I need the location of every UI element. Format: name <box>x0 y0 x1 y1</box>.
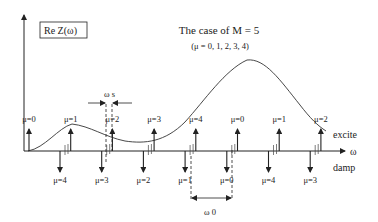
excite-mu-label: μ=4 <box>189 114 203 124</box>
damp-mu-label: μ=2 <box>137 175 151 185</box>
excite-label: excite <box>333 129 357 140</box>
damp-mu-label: μ=3 <box>95 175 109 185</box>
damp-lines: μ=4μ=3μ=2μ=1μ=0μ=4μ=3 <box>53 151 317 185</box>
damp-mu-label: μ=3 <box>303 175 317 185</box>
omega-0-label: ω 0 <box>204 207 216 217</box>
impedance-curve <box>28 60 326 151</box>
diagram-subtitle: (μ = 0, 1, 2, 3, 4) <box>191 41 249 51</box>
y-axis-label: Re Z(ω) <box>44 25 77 37</box>
excite-mu-label: μ=0 <box>22 114 36 124</box>
excite-mu-label: μ=0 <box>231 114 245 124</box>
damp-mu-label: μ=4 <box>53 175 67 185</box>
damp-mu-label: μ=4 <box>262 175 276 185</box>
diagram-title: The case of M = 5 <box>179 24 260 36</box>
x-axis-label: ω <box>350 146 357 157</box>
excite-mu-label: μ=3 <box>147 114 161 124</box>
diagram-canvas: ω Re Z(ω) The case of M = 5 (μ = 0, 1, 2… <box>0 0 378 222</box>
damp-mu-label: μ=0 <box>220 175 234 185</box>
omega-s-label: ω s <box>104 89 115 99</box>
excite-mu-label: μ=2 <box>106 114 120 124</box>
tick-marks <box>65 144 318 155</box>
excite-mu-label: μ=1 <box>64 114 78 124</box>
damp-label: damp <box>333 162 355 173</box>
damp-mu-label: μ=1 <box>178 175 192 185</box>
excite-mu-label: μ=2 <box>314 114 328 124</box>
excite-mu-label: μ=1 <box>272 114 286 124</box>
